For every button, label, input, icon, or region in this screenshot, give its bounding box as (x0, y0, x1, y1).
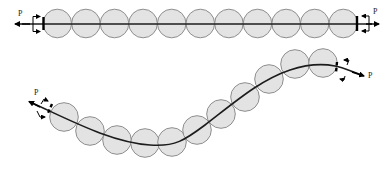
load-label-left: P (18, 9, 23, 18)
load-arrow-right-icon (352, 72, 364, 76)
load-arrow-left-icon (29, 102, 40, 108)
straight-chain: P P (15, 7, 379, 38)
buckled-chain: P P (29, 49, 373, 158)
bead (158, 128, 187, 157)
buckled-beads (50, 49, 338, 158)
bead (76, 117, 105, 146)
load-label-right: P (373, 7, 378, 16)
bead-chain-diagram: P P P (0, 0, 392, 170)
load-label-right: P (368, 71, 373, 80)
load-label-left: P (34, 88, 39, 97)
bead (281, 50, 310, 79)
bead (309, 49, 338, 78)
bead (103, 126, 132, 155)
